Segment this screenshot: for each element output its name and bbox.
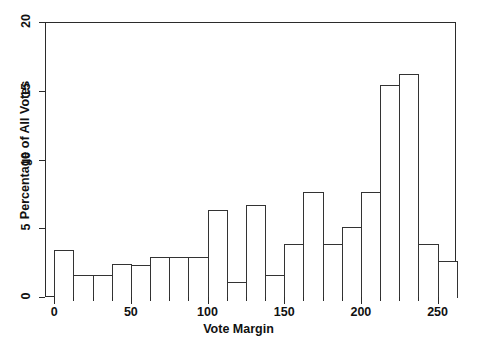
histogram-bar	[438, 261, 458, 298]
x-tick-label: 250	[418, 305, 458, 319]
plot-area	[45, 22, 456, 297]
x-tick-mark	[54, 297, 55, 304]
x-bin-edge-tick	[93, 297, 94, 301]
x-bin-edge-tick	[112, 297, 113, 301]
histogram-bar	[399, 74, 419, 298]
histogram-bar	[418, 244, 438, 298]
histogram-bar	[208, 210, 228, 298]
histogram-figure: Percentage of All Votes 05101520 0501001…	[0, 0, 477, 348]
x-bin-edge-tick	[265, 297, 266, 301]
x-tick-label: 150	[264, 305, 304, 319]
x-bin-edge-tick	[399, 297, 400, 301]
x-tick-mark	[361, 297, 362, 304]
x-bin-edge-tick	[188, 297, 189, 301]
histogram-bar	[361, 192, 381, 298]
histogram-bar	[303, 192, 323, 298]
x-bin-edge-tick	[418, 297, 419, 301]
x-tick-label: 50	[111, 305, 151, 319]
histogram-bar	[131, 265, 151, 298]
x-bin-edge-tick	[303, 297, 304, 301]
x-bin-edge-tick	[380, 297, 381, 301]
y-tick-label: 15	[19, 77, 33, 103]
x-tick-label: 0	[34, 305, 74, 319]
y-tick-mark	[39, 297, 45, 298]
histogram-bar	[246, 205, 266, 299]
x-tick-label: 200	[341, 305, 381, 319]
histogram-bar	[54, 250, 74, 298]
x-tick-label: 100	[188, 305, 228, 319]
histogram-bar	[73, 275, 93, 298]
x-tick-mark	[131, 297, 132, 304]
x-bin-edge-tick	[150, 297, 151, 301]
histogram-bar	[188, 257, 208, 298]
x-bin-edge-tick	[323, 297, 324, 301]
histogram-bar	[284, 244, 304, 298]
x-bin-edge-tick	[227, 297, 228, 301]
y-tick-label: 5	[19, 214, 33, 240]
x-bin-edge-tick	[246, 297, 247, 301]
x-bin-edge-tick	[73, 297, 74, 301]
y-tick-label: 0	[19, 283, 33, 309]
x-tick-mark	[208, 297, 209, 304]
histogram-bar	[150, 257, 170, 298]
histogram-bar	[380, 85, 400, 298]
x-bin-edge-tick	[342, 297, 343, 301]
histogram-bar	[342, 227, 362, 299]
histogram-bar	[323, 244, 343, 298]
x-tick-mark	[284, 297, 285, 304]
x-bin-edge-tick	[169, 297, 170, 301]
y-tick-label: 20	[19, 8, 33, 34]
histogram-bar	[227, 282, 247, 299]
histogram-bar	[169, 257, 189, 298]
x-tick-mark	[438, 297, 439, 304]
histogram-bar	[112, 264, 132, 298]
y-tick-label: 10	[19, 146, 33, 172]
x-axis-title: Vote Margin	[0, 322, 477, 336]
histogram-bar	[265, 275, 285, 298]
histogram-bar	[93, 275, 113, 298]
